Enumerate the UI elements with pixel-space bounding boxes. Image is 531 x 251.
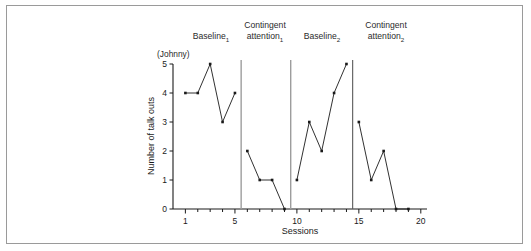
x-tick-label: 5 xyxy=(233,216,238,226)
data-point-marker xyxy=(209,63,212,66)
phase-header-contingent-attention-1-line1: Contingent xyxy=(244,20,286,30)
phase-data-line xyxy=(359,122,396,209)
y-tick-label: 2 xyxy=(162,146,167,156)
data-point-marker xyxy=(407,208,410,211)
data-point-marker xyxy=(308,121,311,124)
single-case-design-chart: Baseline1 Contingent attention1 Baseline… xyxy=(7,6,524,245)
phase-header-contingent-attention-1-line2: attention1 xyxy=(247,31,284,43)
phase-data-line xyxy=(297,64,347,180)
x-tick-label: 10 xyxy=(292,216,302,226)
y-tick-label: 3 xyxy=(162,117,167,127)
phase-divider-lines xyxy=(241,60,353,209)
x-tick-label: 1 xyxy=(183,216,188,226)
data-point-marker xyxy=(258,179,261,182)
phase-header-contingent-attention-2-line1: Contingent xyxy=(365,20,407,30)
data-point-marker xyxy=(333,92,336,95)
x-tick-label: 20 xyxy=(416,216,426,226)
y-tick-label: 1 xyxy=(162,175,167,185)
x-axis-ticks: 15101520 xyxy=(183,209,426,226)
data-point-marker xyxy=(320,150,323,153)
data-point-marker xyxy=(382,150,385,153)
data-point-marker xyxy=(370,179,373,182)
subject-label: (Johnny) xyxy=(157,49,190,59)
x-axis-title: Sessions xyxy=(282,226,319,236)
y-axis-title: Number of talk outs xyxy=(146,96,156,175)
y-tick-label: 0 xyxy=(162,204,167,214)
y-tick-label: 5 xyxy=(162,59,167,69)
data-point-marker xyxy=(221,121,224,124)
phase-header-baseline-1: Baseline1 xyxy=(193,31,230,43)
data-series xyxy=(184,63,410,211)
data-point-marker xyxy=(283,208,286,211)
chart-area: Baseline1 Contingent attention1 Baseline… xyxy=(7,6,524,245)
data-point-marker xyxy=(271,179,274,182)
data-point-marker xyxy=(358,121,361,124)
figure-panel: Baseline1 Contingent attention1 Baseline… xyxy=(6,5,523,244)
data-point-marker xyxy=(296,179,299,182)
y-tick-label: 4 xyxy=(162,88,167,98)
phase-data-line xyxy=(185,64,235,122)
x-tick-label: 15 xyxy=(354,216,364,226)
data-point-marker xyxy=(234,92,237,95)
phase-data-line xyxy=(247,151,284,209)
data-point-marker xyxy=(184,92,187,95)
phase-header-contingent-attention-2-line2: attention2 xyxy=(368,31,405,43)
data-point-marker xyxy=(246,150,249,153)
phase-header-baseline-2: Baseline2 xyxy=(304,31,341,43)
data-point-marker xyxy=(345,63,348,66)
axes xyxy=(173,64,427,209)
data-point-marker xyxy=(196,92,199,95)
y-axis-ticks: 012345 xyxy=(162,59,173,214)
